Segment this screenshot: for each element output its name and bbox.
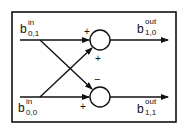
sign-top-cross: + [95,53,101,64]
svg-text:out: out [145,97,157,106]
svg-text:b: b [20,22,27,36]
cross-line-up [40,48,92,97]
output-label-top: b out 1,0 [137,17,157,37]
svg-text:b: b [137,102,144,116]
svg-text:0,1: 0,1 [28,29,40,38]
svg-text:in: in [28,18,34,27]
butterfly-diagram: + + − + b in 0,1 b in 0,0 b out 1,0 b ou… [0,0,184,131]
sign-bottom-straight: + [80,101,86,112]
input-label-top: b in 0,1 [20,18,40,38]
svg-text:in: in [26,97,32,106]
svg-text:0,0: 0,0 [26,108,38,117]
svg-text:b: b [18,101,25,115]
summation-node-bottom [90,87,110,107]
input-label-bottom: b in 0,0 [18,97,38,117]
svg-text:out: out [145,17,157,26]
sign-bottom-cross: − [94,73,100,85]
sign-top-straight: + [84,26,90,37]
output-label-bottom: b out 1,1 [137,97,157,117]
svg-text:1,1: 1,1 [145,108,157,117]
cross-line-down [40,40,92,89]
summation-node-top [90,30,110,50]
svg-text:1,0: 1,0 [145,28,157,37]
svg-text:b: b [137,22,144,36]
